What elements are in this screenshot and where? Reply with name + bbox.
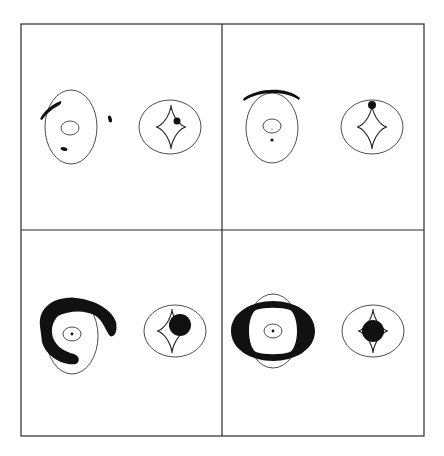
inner-critical-curve: [61, 121, 79, 135]
lensed-image-blob: [272, 330, 275, 333]
lensed-image-band: [40, 298, 117, 365]
source-disk: [362, 320, 384, 342]
lensed-image-arc: [243, 90, 300, 101]
astroid-caustic: [156, 105, 186, 149]
lensed-image-blob: [271, 128, 272, 129]
source-disk: [169, 314, 191, 336]
astroid-caustic: [357, 105, 387, 149]
lensed-image-blob: [60, 146, 68, 151]
image-plane: [231, 294, 315, 368]
critical-curve: [246, 93, 298, 163]
panel-top-right: [243, 90, 403, 163]
source-plane: [341, 100, 403, 154]
source-plane: [144, 305, 206, 357]
image-plane: [40, 90, 113, 164]
lensed-image-blob: [270, 138, 273, 141]
image-plane: [40, 298, 117, 374]
source-plane: [342, 305, 404, 357]
panel-bottom-left: [40, 298, 206, 374]
lensing-figure: [0, 0, 444, 456]
panel-frame: [21, 24, 424, 436]
panel-top-left: [40, 90, 201, 164]
lensed-image-blob: [71, 333, 74, 336]
source-disk: [174, 118, 181, 125]
critical-curve: [45, 90, 97, 164]
inner-critical-curve: [263, 119, 281, 133]
figure-canvas: [0, 0, 444, 456]
source-disk: [368, 101, 376, 109]
panel-bottom-right: [231, 294, 404, 368]
source-plane: [139, 100, 201, 154]
lensed-image-blob: [107, 115, 112, 123]
image-plane: [243, 90, 300, 163]
